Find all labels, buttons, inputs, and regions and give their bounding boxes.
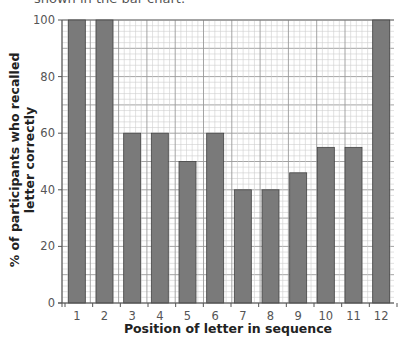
y-axis-title-line-2: letter correctly bbox=[22, 53, 37, 268]
bar-3 bbox=[124, 133, 141, 303]
bar-11 bbox=[345, 147, 362, 303]
y-tick-label: 100 bbox=[33, 13, 55, 27]
x-axis-title: Position of letter in sequence bbox=[62, 321, 394, 336]
y-tick-label: 20 bbox=[40, 239, 55, 253]
bar-6 bbox=[207, 133, 224, 303]
bar-1 bbox=[68, 20, 85, 303]
bar-2 bbox=[96, 20, 113, 303]
bar-chart: 020406080100123456789101112 bbox=[0, 0, 404, 343]
y-tick-label: 60 bbox=[40, 126, 55, 140]
y-tick-label: 80 bbox=[40, 70, 55, 84]
y-tick-label: 40 bbox=[40, 183, 55, 197]
y-axis-title-line-1: % of participants who recalled bbox=[7, 53, 22, 268]
bar-9 bbox=[290, 173, 307, 303]
bar-10 bbox=[317, 147, 334, 303]
bar-4 bbox=[151, 133, 168, 303]
bar-7 bbox=[234, 190, 251, 303]
bar-12 bbox=[373, 20, 390, 303]
y-axis-title: % of participants who recalled letter co… bbox=[2, 60, 42, 260]
y-tick-label: 0 bbox=[48, 296, 55, 310]
bar-8 bbox=[262, 190, 279, 303]
bar-5 bbox=[179, 162, 196, 304]
